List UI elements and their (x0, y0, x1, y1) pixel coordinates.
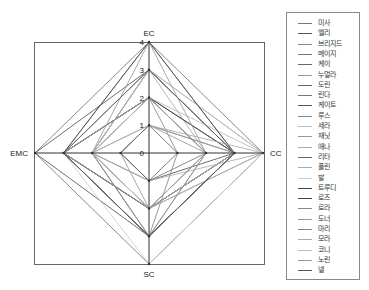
legend-line-swatch (298, 270, 312, 271)
legend-line-swatch (298, 126, 312, 127)
legend-line-swatch (298, 147, 312, 148)
legend-line-swatch (298, 250, 312, 251)
legend-line-swatch (298, 167, 312, 168)
tick-label: 1 (140, 121, 145, 130)
legend-line-swatch (298, 208, 312, 209)
legend-line-swatch (298, 157, 312, 158)
legend-line-swatch (298, 198, 312, 199)
axis-label-cc: CC (270, 149, 282, 158)
legend-line-swatch (298, 136, 312, 137)
legend: 미사엘리브리지드메이지케이누얼라도린린다케이트루스세라재닛애나리타폴린발트루디로… (286, 12, 360, 280)
axis-label-emc: EMC (10, 149, 28, 158)
tick-label: 0 (140, 149, 145, 158)
tick-label: 3 (140, 66, 145, 75)
legend-line-swatch (298, 116, 312, 117)
legend-line-swatch (298, 64, 312, 65)
legend-line-swatch (298, 95, 312, 96)
legend-label: 넬 (318, 265, 324, 276)
legend-line-swatch (298, 75, 312, 76)
legend-line-swatch (298, 178, 312, 179)
legend-line-swatch (298, 33, 312, 34)
legend-item: 넬 (287, 265, 359, 276)
legend-line-swatch (298, 44, 312, 45)
axis-label-sc: SC (143, 270, 154, 279)
legend-line-swatch (298, 219, 312, 220)
legend-line-swatch (298, 229, 312, 230)
tick-label: 4 (140, 38, 145, 47)
axis-label-ec: EC (143, 29, 154, 38)
legend-line-swatch (298, 105, 312, 106)
legend-line-swatch (298, 85, 312, 86)
tick-label: 2 (140, 94, 145, 103)
legend-line-swatch (298, 54, 312, 55)
legend-line-swatch (298, 23, 312, 24)
legend-line-swatch (298, 239, 312, 240)
legend-line-swatch (298, 188, 312, 189)
legend-line-swatch (298, 260, 312, 261)
